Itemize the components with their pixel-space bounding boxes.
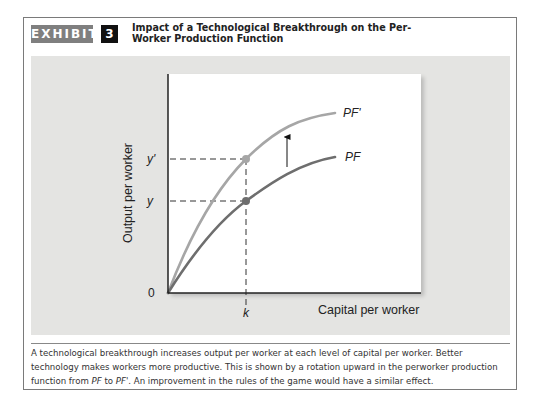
caption-pf: PF: [92, 376, 102, 386]
pf-prime-curve: [168, 113, 335, 293]
caption-text: . An improvement in the rules of the gam…: [128, 376, 433, 386]
caption-text: to: [102, 376, 116, 386]
x-axis-label: Capital per worker: [318, 303, 419, 317]
pf-prime-point: [242, 155, 250, 163]
exhibit-caption: A technological breakthrough increases o…: [31, 346, 510, 388]
k-tick-label: k: [243, 306, 249, 320]
pf-curve: [168, 157, 335, 293]
caption-pf-prime: PF': [116, 376, 129, 386]
y-prime-tick-label: y': [147, 152, 155, 166]
origin-label: 0: [148, 286, 155, 300]
y-tick-label: y: [147, 194, 153, 208]
pf-point: [242, 197, 250, 205]
caption-divider: [31, 343, 510, 344]
y-axis-label: Output per worker: [121, 143, 135, 243]
pf-prime-label: PF': [343, 106, 361, 120]
pf-label: PF: [345, 150, 360, 164]
